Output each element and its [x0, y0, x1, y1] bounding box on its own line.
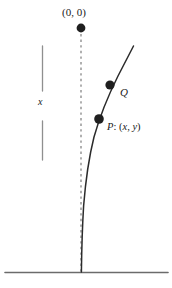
point-origin-dot: [77, 24, 86, 33]
diagram-canvas: [0, 0, 172, 288]
point-p-label-colon: :: [113, 121, 116, 132]
x-measure-label: x: [38, 97, 42, 107]
point-p-label-comma: ,: [127, 121, 130, 132]
point-p-dot: [94, 114, 104, 124]
point-p-label: P: (x, y): [107, 122, 141, 133]
point-q-dot: [105, 80, 114, 89]
point-q-label: Q: [120, 87, 128, 98]
point-p-label-close-paren: ): [137, 121, 141, 132]
tractrix-curve: [81, 46, 133, 272]
tractrix-diagram: (0, 0) Q P: (x, y) x: [0, 0, 172, 288]
origin-label: (0, 0): [62, 7, 86, 18]
